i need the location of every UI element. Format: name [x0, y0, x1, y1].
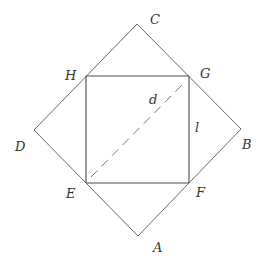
label-e: E: [65, 186, 76, 201]
label-a: A: [152, 240, 162, 255]
label-d: D: [14, 139, 26, 154]
label-g: G: [200, 66, 210, 81]
label-h: H: [64, 68, 77, 83]
label-b: B: [241, 137, 252, 152]
label-side-l: l: [195, 120, 199, 135]
label-diagonal-d: d: [149, 92, 157, 107]
geometry-diagram: A B C D E F G H d l: [0, 0, 262, 258]
label-f: F: [195, 185, 206, 200]
diagonal-d-dashed: [91, 85, 182, 177]
label-c: C: [150, 12, 160, 27]
